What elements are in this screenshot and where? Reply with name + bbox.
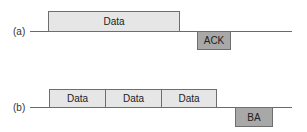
data-frame-label: Data bbox=[123, 93, 144, 104]
block-ack-frame: BA bbox=[235, 107, 273, 127]
data-frame: Data bbox=[105, 89, 162, 108]
data-frame-label: Data bbox=[103, 16, 124, 27]
data-frame: Data bbox=[49, 89, 106, 108]
block-ack-label: BA bbox=[247, 112, 260, 123]
data-frame-label: Data bbox=[67, 93, 88, 104]
data-frame: Data bbox=[48, 11, 180, 32]
ack-label: ACK bbox=[204, 35, 225, 46]
ack-frame: ACK bbox=[197, 31, 231, 50]
data-frame-label: Data bbox=[178, 93, 199, 104]
label-b: (b) bbox=[13, 103, 25, 113]
label-a: (a) bbox=[13, 27, 25, 37]
data-frame: Data bbox=[161, 89, 217, 108]
